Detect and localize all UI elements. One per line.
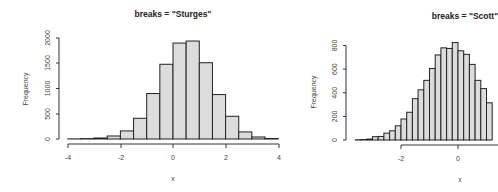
scott-bar bbox=[373, 137, 379, 140]
scott-ytick-400: 400 bbox=[331, 87, 338, 99]
scott-histogram-panel: breaks = "Scott" 0 200 400 600 800 Frequ… bbox=[310, 11, 498, 183]
scott-bar bbox=[435, 55, 441, 140]
scott-bar bbox=[487, 103, 493, 140]
sturges-ytick-1000: 1000 bbox=[44, 81, 51, 97]
scott-bar bbox=[401, 119, 407, 140]
scott-y-label: Frequency bbox=[310, 75, 318, 109]
sturges-bar bbox=[265, 139, 278, 140]
scott-bar bbox=[430, 69, 436, 140]
sturges-y-axis: 0 500 1000 1500 2000 Frequency bbox=[22, 30, 59, 141]
sturges-xtick-neg2: -2 bbox=[118, 154, 124, 161]
scott-bar bbox=[475, 80, 481, 140]
sturges-bar bbox=[252, 137, 265, 139]
scott-x-label: x bbox=[458, 176, 462, 183]
scott-ytick-0: 0 bbox=[331, 138, 338, 142]
sturges-ytick-2000: 2000 bbox=[44, 30, 51, 46]
sturges-bar bbox=[107, 136, 120, 139]
scott-bar bbox=[418, 90, 424, 140]
scott-xtick-0: 0 bbox=[456, 155, 460, 162]
sturges-ytick-1500: 1500 bbox=[44, 55, 51, 71]
scott-bar bbox=[407, 112, 413, 140]
sturges-xtick-4: 4 bbox=[277, 154, 281, 161]
scott-bar bbox=[441, 48, 447, 140]
sturges-ytick-0: 0 bbox=[44, 137, 51, 141]
scott-bars bbox=[355, 43, 492, 140]
scott-bar bbox=[452, 43, 458, 140]
scott-chart-title: breaks = "Scott" bbox=[432, 11, 498, 21]
sturges-bar bbox=[94, 138, 107, 139]
sturges-bar bbox=[160, 64, 173, 139]
scott-bar bbox=[390, 131, 396, 140]
sturges-xtick-0: 0 bbox=[171, 154, 175, 161]
sturges-xtick-neg4: -4 bbox=[65, 154, 71, 161]
sturges-chart-title: breaks = "Sturges" bbox=[135, 9, 212, 19]
sturges-bar bbox=[173, 43, 186, 139]
scott-xtick-neg2: -2 bbox=[398, 155, 404, 162]
scott-ytick-200: 200 bbox=[331, 110, 338, 122]
scott-bar bbox=[412, 99, 418, 140]
scott-bar bbox=[395, 126, 401, 140]
sturges-bar bbox=[199, 63, 212, 139]
sturges-bar bbox=[239, 132, 252, 139]
sturges-x-axis: -4 -2 0 2 4 x bbox=[65, 144, 281, 182]
scott-bar bbox=[469, 64, 475, 140]
sturges-bars bbox=[68, 41, 278, 139]
scott-ytick-800: 800 bbox=[331, 40, 338, 52]
sturges-bar bbox=[147, 94, 160, 139]
scott-y-axis: 0 200 400 600 800 Frequency bbox=[310, 40, 346, 142]
sturges-bar bbox=[226, 116, 239, 139]
scott-ytick-600: 600 bbox=[331, 63, 338, 75]
scott-bar bbox=[447, 48, 453, 140]
scott-bar bbox=[464, 54, 470, 140]
sturges-bar bbox=[186, 41, 199, 139]
sturges-ytick-500: 500 bbox=[44, 108, 51, 120]
scott-x-axis: -2 0 x bbox=[398, 145, 498, 183]
scott-bar bbox=[378, 136, 384, 140]
scott-bar bbox=[384, 133, 390, 140]
sturges-x-label: x bbox=[171, 175, 175, 182]
sturges-bar bbox=[212, 95, 225, 139]
sturges-histogram-panel: breaks = "Sturges" 0 500 1000 1500 2000 … bbox=[22, 9, 281, 182]
sturges-bar bbox=[120, 131, 133, 139]
scott-bar bbox=[481, 89, 487, 140]
histogram-figure: breaks = "Sturges" 0 500 1000 1500 2000 … bbox=[0, 0, 498, 192]
sturges-bar bbox=[134, 118, 147, 139]
sturges-xtick-2: 2 bbox=[224, 154, 228, 161]
scott-bar bbox=[424, 80, 430, 140]
sturges-y-label: Frequency bbox=[22, 72, 30, 106]
scott-bar bbox=[367, 139, 373, 140]
scott-bar bbox=[458, 51, 464, 140]
